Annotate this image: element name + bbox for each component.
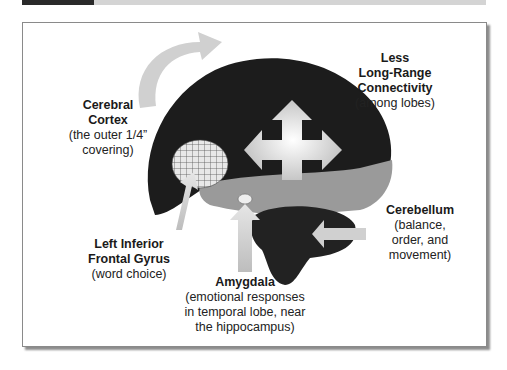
frontal-gyrus-region [172, 140, 228, 188]
label-cerebellum: Cerebellum (balance, order, and movement… [370, 203, 470, 263]
cerebellum-shape [251, 206, 356, 285]
label-frontal-gyrus: Left Inferior Frontal Gyrus (word choice… [74, 237, 184, 282]
label-connectivity: Less Long-Range Connectivity (among lobe… [345, 51, 445, 111]
label-amygdala: Amygdala (emotional responses in tempora… [180, 275, 310, 335]
amygdala-region [238, 194, 252, 204]
label-cerebral-cortex: Cerebral Cortex (the outer 1/4” covering… [58, 98, 158, 158]
